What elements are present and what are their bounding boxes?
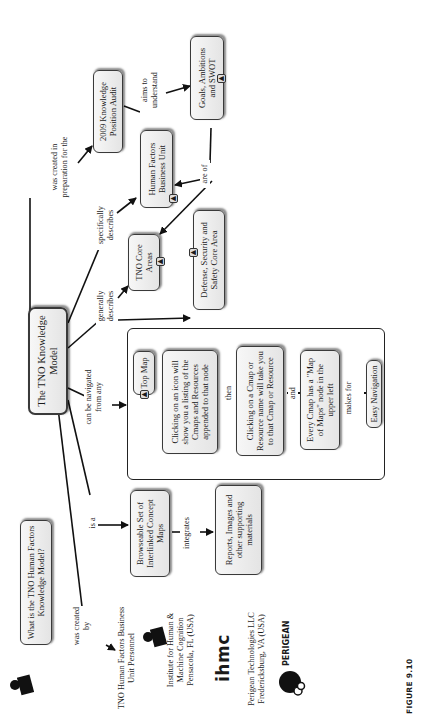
perigean-logo: PERIGEAN [282,621,291,666]
audit-node[interactable]: 2009 Knowledge Position Audit [93,70,123,153]
link-is-a: is a [88,513,98,533]
link-created-prep: was created in preparation for the [50,136,69,198]
defense-label: Defense, Security and Safety Core Area [199,215,219,305]
org-tno-personnel: TNO Human Factors Business Unit Personne… [117,603,137,713]
browseable-node[interactable]: Browseable Set of Interlinked Concept Ma… [130,490,170,577]
link-are-of: are of [200,160,210,188]
defense-node[interactable]: Defense, Security and Safety Core Area ▲ [193,210,225,310]
goals-node[interactable]: Goals, Ambitions and SWOT ▲ [190,36,224,120]
question-node[interactable]: What is the TNO Human Factors Knowledge … [20,520,52,645]
link-aims: aims to understand [140,67,159,113]
perigean-globe-icon [276,668,306,698]
link-spec-describes: specifically describes [96,200,115,250]
top-map-node[interactable]: Top Map ▲ [133,351,155,395]
click-icon-node[interactable]: Clicking on an icon will show you a list… [162,350,218,454]
cmap-link-icon[interactable]: ▲ [189,248,198,257]
core-areas-label: TNO Core Areas [134,239,154,286]
link-makes-for: makes for [344,378,354,418]
link-then: then [224,378,234,408]
cmap-link-icon[interactable]: ▲ [217,74,226,83]
ihmc-logo: ihmc [213,634,233,682]
hf-unit-node[interactable]: Human Factors Business Unit ▲ [140,130,173,208]
click-name-label: Clicking on a Cmap or Resource name will… [245,351,275,451]
main-concept-node[interactable]: The TNO Knowledge Model [28,307,68,415]
cmap-link-icon[interactable]: ▲ [140,390,149,399]
cmap-link-icon[interactable]: ▲ [156,257,165,266]
link-navigated: can be navigated from any [84,366,103,428]
core-areas-node[interactable]: TNO Core Areas ▲ [128,234,160,291]
click-name-node[interactable]: Clicking on a Cmap or Resource name will… [236,346,284,456]
easy-navigation-label: Easy Navigation [369,365,379,422]
top-map-label: Top Map [139,357,149,388]
question-label: What is the TNO Human Factors Knowledge … [26,525,46,640]
browseable-label: Browseable Set of Interlinked Concept Ma… [135,495,165,572]
tno-logo-icon [141,624,167,650]
link-integrates: integrates [182,508,192,558]
reports-node[interactable]: Reports, Images and other supporting mat… [215,485,262,575]
link-created-by: was created by [72,606,91,646]
hf-unit-label: Human Factors Business Unit [147,135,167,203]
audit-label: 2009 Knowledge Position Audit [98,75,118,148]
map-of-maps-node[interactable]: Every Cmap has a "Map of Maps" node in t… [300,350,340,450]
map-of-maps-label: Every Cmap has a "Map of Maps" node in t… [305,355,335,445]
click-icon-label: Clicking on an icon will show you a list… [170,355,210,449]
concept-map-canvas: The TNO Knowledge Model What is the TNO … [0,0,421,718]
org-ihmc: Institute for Human & Machine Cognition … [166,612,196,688]
goals-label: Goals, Ambitions and SWOT [197,41,217,115]
org-perigean: Perigean Technologies LLC Fredericksburg… [247,608,267,710]
easy-navigation-node[interactable]: Easy Navigation [366,360,382,428]
tno-logo-icon [8,672,34,698]
reports-label: Reports, Images and other supporting mat… [224,490,254,570]
link-and: and [288,381,298,405]
cmap-link-icon[interactable]: ▲ [169,194,178,203]
link-gen-describes: generally describes [96,284,115,328]
figure-caption: FIGURE 9.10 [405,659,414,714]
main-concept-label: The TNO Knowledge Model [36,313,60,409]
